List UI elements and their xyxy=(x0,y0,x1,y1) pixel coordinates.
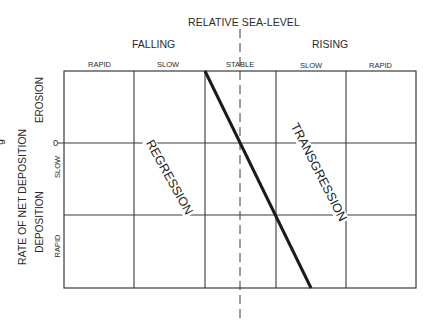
column-header-rising-rapid: RAPID xyxy=(369,62,392,70)
rising-label: RISING xyxy=(312,39,348,50)
row-label-rapid: RAPID xyxy=(54,235,62,258)
equilibrium-boundary-line xyxy=(205,71,311,288)
column-header-rising-slow: SLOW xyxy=(300,62,322,70)
deposition-label: DEPOSITION xyxy=(35,191,45,253)
row-label-slow: SLOW xyxy=(54,156,62,178)
zero-tick-label: 0 xyxy=(53,138,58,148)
column-header-stable: STABLE xyxy=(226,61,254,69)
diagram-title: RELATIVE SEA-LEVEL xyxy=(188,17,300,28)
column-header-falling-slow: SLOW xyxy=(157,61,179,69)
column-header-falling-rapid: RAPID xyxy=(88,61,111,69)
erosion-label: EROSION xyxy=(35,77,45,123)
falling-label: FALLING xyxy=(132,39,175,50)
diagram-canvas xyxy=(0,0,428,330)
y-axis-title: RATE OF NET DEPOSITION xyxy=(17,129,28,265)
cropped-text-fragment: g xyxy=(0,139,5,145)
